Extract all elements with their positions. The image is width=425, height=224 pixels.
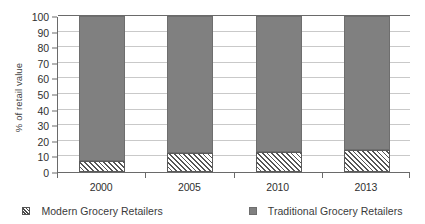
y-tick-label-70: 70 (38, 58, 49, 70)
chart-legend: Modern Grocery Retailers Traditional Gro… (0, 201, 425, 221)
y-tick-label-80: 80 (38, 42, 49, 54)
y-tick-label-40: 40 (38, 105, 49, 117)
y-axis-ticks: 0102030405060708090100 (0, 17, 57, 173)
y-tick-label-90: 90 (38, 27, 49, 39)
stacked-bar-chart: % of retail value 0102030405060708090100… (0, 0, 425, 224)
bar-group-2000[interactable] (79, 17, 125, 172)
y-tick-label-0: 0 (43, 167, 49, 179)
hatched-square-icon (22, 207, 30, 215)
bar-group-2013[interactable] (344, 17, 390, 172)
bar-segment-traditional-2010[interactable] (256, 16, 302, 152)
bar-segment-modern-2005[interactable] (167, 153, 213, 172)
bar-segment-traditional-2005[interactable] (167, 16, 213, 153)
x-tick-label-2005: 2005 (178, 181, 201, 193)
y-tick-label-100: 100 (32, 11, 49, 23)
x-tick-mark-0 (57, 173, 58, 178)
legend-label-modern: Modern Grocery Retailers (41, 205, 162, 217)
x-tick-mark-1 (145, 173, 146, 178)
y-tick-label-50: 50 (38, 89, 49, 101)
y-tick-label-30: 30 (38, 120, 49, 132)
x-axis-ticks: 2000200520102013 (57, 173, 410, 197)
bar-segment-traditional-2000[interactable] (79, 16, 125, 161)
x-tick-label-2000: 2000 (90, 181, 113, 193)
y-tick-label-60: 60 (38, 73, 49, 85)
x-tick-mark-3 (322, 173, 323, 178)
bar-segment-modern-2000[interactable] (79, 161, 125, 172)
legend-label-traditional: Traditional Grocery Retailers (268, 205, 403, 217)
bar-segment-modern-2010[interactable] (256, 152, 302, 172)
x-tick-mark-2 (234, 173, 235, 178)
bar-group-2010[interactable] (256, 17, 302, 172)
bar-group-2005[interactable] (167, 17, 213, 172)
x-tick-mark-end (409, 173, 410, 178)
legend-item-traditional: Traditional Grocery Retailers (249, 205, 403, 217)
bar-segment-traditional-2013[interactable] (344, 16, 390, 150)
y-tick-label-10: 10 (38, 151, 49, 163)
bar-segment-modern-2013[interactable] (344, 150, 390, 172)
legend-item-modern: Modern Grocery Retailers (22, 205, 162, 217)
gray-square-icon (249, 207, 257, 215)
x-tick-label-2013: 2013 (354, 181, 377, 193)
plot-area (57, 17, 410, 173)
y-tick-label-20: 20 (38, 136, 49, 148)
x-tick-label-2010: 2010 (266, 181, 289, 193)
bars-container (58, 17, 410, 172)
